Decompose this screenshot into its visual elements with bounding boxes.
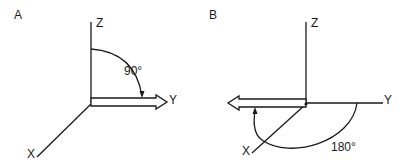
panel-b-origin-dot: [304, 102, 307, 105]
panel-b-vector-arrow: [228, 96, 306, 110]
panel-a-y-label: Y: [169, 93, 177, 107]
panel-a-z-label: Z: [96, 16, 103, 30]
panel-a: A Z X Y 90°: [14, 8, 177, 161]
panel-b-arc-arrowhead-icon: [253, 107, 258, 114]
panel-a-vector-arrow: [91, 95, 167, 109]
panel-a-label: A: [14, 8, 22, 22]
panel-b-label: B: [209, 8, 217, 22]
panel-b-x-axis: [252, 104, 306, 153]
panel-b: B Z Y X 180°: [209, 8, 392, 158]
panel-b-angle-label: 180°: [331, 140, 356, 154]
panel-a-angle-label: 90°: [124, 64, 142, 78]
panel-a-x-axis: [37, 104, 91, 157]
panel-a-arc-arrowhead-icon: [140, 91, 145, 98]
panel-b-y-label: Y: [384, 93, 392, 107]
coordinate-rotation-diagram: A Z X Y 90° B Z Y X 180°: [0, 0, 404, 165]
panel-b-x-label: X: [242, 144, 250, 158]
panel-b-z-label: Z: [311, 16, 318, 30]
panel-a-x-label: X: [27, 147, 35, 161]
